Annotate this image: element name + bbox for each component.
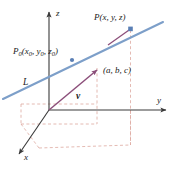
label-vector-v: v [76,91,81,101]
label-point-p-args: (x, y, z) [100,12,126,22]
dashed-large-left-edge [21,124,39,148]
label-point-p0-open: (x [22,46,29,56]
line-L [3,22,163,99]
label-point-p: P(x, y, z) [93,12,126,22]
coordinate-axes [19,12,166,154]
dashed-large-bottom-edge [39,145,131,148]
figure-container: P(x, y, z) P0(x0, y0, z0) (a, b, c) L v … [0,0,179,170]
label-axis-y: y [156,95,161,105]
label-axis-x: x [23,152,28,162]
3d-line-diagram: P(x, y, z) P0(x0, y0, z0) (a, b, c) L v … [0,0,179,170]
label-point-p0-mid1: , y [32,46,41,56]
label-abc: (a, b, c) [103,65,131,75]
label-line-L: L [22,77,28,87]
x-axis [19,110,49,154]
vector-v [49,70,97,110]
label-axis-z: z [55,8,60,18]
label-point-p0: P0(x0, y0, z0) [12,46,58,57]
point-marker-p0 [70,58,74,62]
point-marker-p [128,27,133,32]
label-point-p0-close: ) [54,46,58,56]
